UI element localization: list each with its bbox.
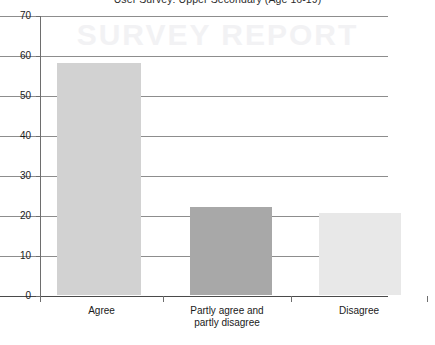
bar-partly-agree-and-partly-disagree [190, 207, 272, 295]
y-tick-label-40: 40 [0, 131, 31, 141]
plot-area [40, 16, 428, 295]
x-label-disagree: Disagree [291, 305, 427, 317]
x-axis-tick-start [40, 296, 41, 302]
chart-figure: User Survey: Upper Secondary (Age 16-19)… [0, 0, 435, 345]
x-label-partly-agree-line2: partly disagree [163, 317, 291, 329]
x-axis-tick-1 [163, 296, 164, 302]
x-label-disagree-line1: Disagree [291, 305, 427, 317]
x-axis-tick-end [427, 296, 428, 302]
y-tick-label-50: 50 [0, 91, 31, 101]
x-axis-baseline [0, 296, 388, 297]
y-tick-label-60: 60 [0, 51, 31, 61]
y-tick-label-0: 0 [0, 291, 31, 301]
x-label-partly-agree: Partly agree and partly disagree [163, 305, 291, 329]
y-tick-label-20: 20 [0, 211, 31, 221]
bar-agree [57, 63, 141, 295]
x-label-agree-line1: Agree [40, 305, 163, 317]
x-label-partly-agree-line1: Partly agree and [163, 305, 291, 317]
bar-disagree [319, 213, 401, 295]
y-tick-label-70: 70 [0, 11, 31, 21]
y-tick-label-10: 10 [0, 251, 31, 261]
y-tick-label-30: 30 [0, 171, 31, 181]
chart-title: User Survey: Upper Secondary (Age 16-19) [0, 0, 435, 5]
x-label-agree: Agree [40, 305, 163, 317]
x-axis-tick-2 [291, 296, 292, 302]
